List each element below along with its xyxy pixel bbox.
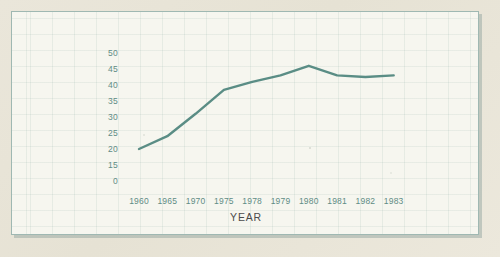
x-tick-label: 1975 [214,196,234,206]
chart-panel: 50454035302520150 1960196519701975197819… [11,11,479,235]
x-tick-label: 1978 [242,196,262,206]
x-axis-title: YEAR [12,211,480,223]
x-tick-label: 1980 [299,196,319,206]
plot-area: 50454035302520150 1960196519701975197819… [12,12,480,236]
x-tick-label: 1983 [384,196,404,206]
x-tick-label: 1982 [356,196,376,206]
x-tick-label: 1970 [186,196,206,206]
x-tick-label: 1979 [271,196,291,206]
x-axis: 1960196519701975197819791980198119821983 [12,196,480,210]
x-tick-label: 1960 [129,196,149,206]
x-tick-label: 1981 [327,196,347,206]
series-polyline [139,66,394,149]
x-tick-label: 1965 [157,196,177,206]
